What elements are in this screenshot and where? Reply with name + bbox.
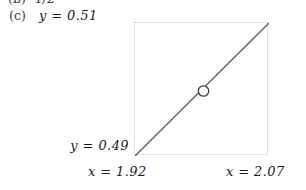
plot-frame (134, 22, 268, 155)
item-label-c: (c) (9, 8, 39, 23)
item-row-c: (c)y = 0.51 (9, 8, 98, 23)
y-axis-bottom-label: y = 0.49 (70, 138, 129, 153)
clipped-item-value: 1/2 (35, 0, 55, 6)
x-axis-left-label: x = 1.92 (88, 164, 147, 179)
figure-panel: (b)1/2 (c)y = 0.51 y = 0.49 x = 1.92 x =… (0, 0, 306, 190)
plot-canvas (135, 23, 269, 156)
clipped-previous-item: (b)1/2 (8, 0, 55, 7)
x-axis-right-label: x = 2.07 (226, 164, 285, 179)
clipped-item-label: (b) (8, 0, 35, 6)
data-point-marker (198, 86, 208, 96)
y-axis-top-label: y = 0.51 (39, 8, 98, 23)
